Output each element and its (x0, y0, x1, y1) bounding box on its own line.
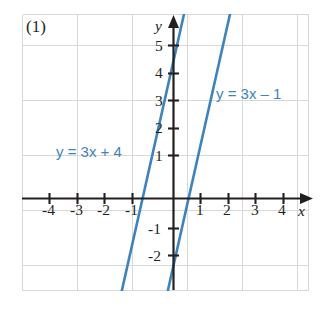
x-tick-label: 1 (196, 202, 204, 218)
x-tick-label: -4 (42, 202, 55, 218)
y-tick-label: 3 (155, 93, 163, 109)
x-tick-label: 4 (278, 202, 286, 218)
x-tick-label: -1 (125, 202, 138, 218)
x-tick-label: 2 (223, 202, 231, 218)
y-axis-label: y (155, 18, 162, 34)
y-tick-label: 5 (155, 38, 163, 54)
y-tick-label: -2 (148, 248, 161, 264)
y-tick-label: 4 (155, 65, 163, 81)
x-tick-label: 3 (251, 202, 259, 218)
x-axis (22, 193, 313, 204)
y-tick-label: 2 (155, 120, 163, 136)
x-tick-label: -3 (70, 202, 83, 218)
exercise-number: (1) (26, 18, 46, 35)
equation-label-line-2: y = 3x – 1 (216, 86, 281, 101)
graph-figure: (1) y x -4 -3 -2 -1 1 2 3 4 5 4 3 2 1 -1… (0, 0, 327, 312)
x-tick-label: -2 (97, 202, 110, 218)
x-axis-label: x (298, 203, 305, 219)
equation-label-line-1: y = 3x + 4 (56, 144, 122, 159)
coordinate-plane-svg (0, 0, 327, 312)
y-tick-label: -1 (148, 221, 161, 237)
y-tick-label: 1 (155, 148, 163, 164)
